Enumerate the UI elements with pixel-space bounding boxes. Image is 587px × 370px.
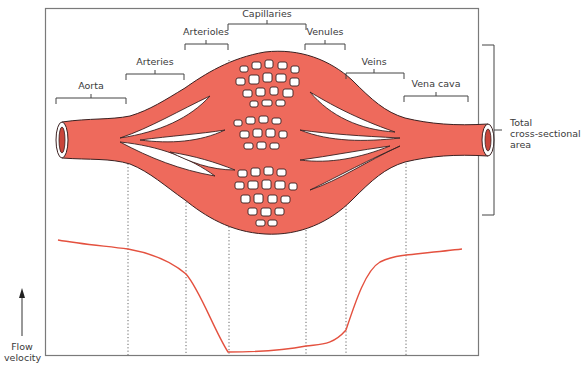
label-line: cross-sectional (510, 128, 581, 139)
label-line: Total (510, 117, 581, 128)
label-capillaries: Capillaries (242, 8, 292, 19)
label-arteries: Arteries (136, 56, 173, 67)
label-vena-cava: Vena cava (412, 78, 461, 89)
vessel-diagram (0, 0, 587, 370)
label-line: Flow (4, 341, 40, 352)
label-arterioles: Arterioles (183, 26, 229, 37)
label-venules: Venules (306, 26, 343, 37)
label-aorta: Aorta (78, 80, 104, 91)
aorta-lumen (59, 127, 65, 153)
label-flow-velocity: Flow velocity (4, 341, 40, 363)
arrow-up-icon (19, 288, 25, 336)
flow-velocity-curve (58, 240, 462, 352)
vena-cava-lumen (485, 129, 491, 151)
label-total-cross-sectional-area: Total cross-sectional area (510, 117, 581, 150)
label-line: velocity (4, 352, 40, 363)
label-veins: Veins (361, 56, 386, 67)
label-line: area (510, 139, 581, 150)
